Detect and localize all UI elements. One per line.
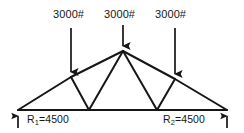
load-label-right: 3000# [155,9,186,20]
reaction-right-subscript: 2 [171,118,175,127]
reaction-left-symbol: R [27,113,35,125]
reaction-right-value: 4500 [181,113,205,125]
load-label-left: 3000# [53,9,84,20]
reaction-right-symbol: R [163,113,171,125]
truss-diagram: 3000# 3000# 3000# R1=4500 R2=4500 [0,0,244,133]
member-web-right-vertical [157,79,175,110]
reaction-left-value: 4500 [45,113,69,125]
member-web-left-vertical [71,77,89,110]
reaction-left-subscript: 1 [35,118,39,127]
load-label-center: 3000# [104,9,135,20]
reaction-label-left: R1=4500 [27,114,69,125]
reaction-label-right: R2=4500 [163,114,205,125]
member-top-chord-left-lower [18,77,71,110]
member-top-chord-right-lower [175,79,227,110]
